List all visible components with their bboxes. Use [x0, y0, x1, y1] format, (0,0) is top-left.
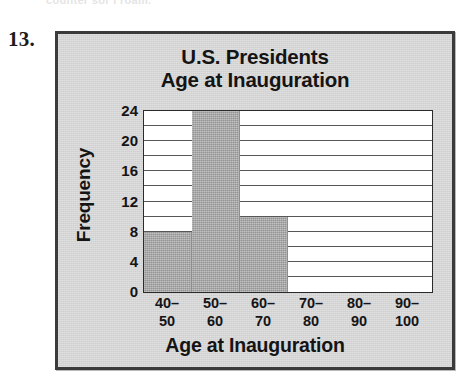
x-axis-tick-label: 40–50: [143, 295, 191, 330]
x-axis-tick-label-line: 70: [239, 313, 287, 331]
chart-title-line-1: U.S. Presidents: [58, 46, 452, 69]
y-axis-tick-label: 16: [121, 162, 138, 179]
x-axis-tick-label-line: 80: [287, 313, 335, 331]
x-axis-tick-label-line: 90: [335, 313, 383, 331]
x-axis-tick-label-line: 90–: [383, 295, 431, 313]
bar-slot: [288, 111, 336, 292]
y-axis-tick-labels: 04812162024: [98, 110, 138, 291]
bar-slot: [192, 111, 240, 292]
bar-series: [144, 111, 432, 292]
y-axis-tick-label: 24: [121, 102, 138, 119]
bar-slot: [144, 111, 192, 292]
plot-area: [143, 110, 433, 293]
x-axis-tick-label-line: 100: [383, 313, 431, 331]
x-axis-tick-labels: 40–5050–6060–7070–8080–9090–100: [143, 295, 431, 330]
bar: [144, 232, 192, 292]
y-axis-tick-label: 12: [121, 192, 138, 209]
exercise-number: 13.: [8, 27, 35, 52]
bar: [192, 111, 240, 292]
x-axis-tick-label-line: 50–: [191, 295, 239, 313]
x-axis-tick-label: 80–90: [335, 295, 383, 330]
y-axis-tick-label: 20: [121, 132, 138, 149]
bar-slot: [240, 111, 288, 292]
x-axis-tick-label-line: 50: [143, 313, 191, 331]
y-axis-tick-label: 0: [130, 283, 138, 300]
x-axis-tick-label: 60–70: [239, 295, 287, 330]
x-axis-tick-label-line: 40–: [143, 295, 191, 313]
y-axis-title: Frequency: [73, 125, 95, 265]
chart-figure-panel: U.S. Presidents Age at Inauguration Freq…: [55, 31, 455, 370]
x-axis-tick-label: 70–80: [287, 295, 335, 330]
x-axis-tick-label-line: 60: [191, 313, 239, 331]
bar-slot: [384, 111, 432, 292]
chart-title: U.S. Presidents Age at Inauguration: [58, 46, 452, 92]
cut-off-text-above-figure: counter sor i roam.: [46, 0, 151, 6]
x-axis-tick-label: 90–100: [383, 295, 431, 330]
x-axis-title: Age at Inauguration: [58, 334, 452, 357]
y-axis-tick-label: 8: [130, 222, 138, 239]
bar: [240, 217, 288, 292]
chart-title-line-2: Age at Inauguration: [58, 69, 452, 92]
x-axis-tick-label: 50–60: [191, 295, 239, 330]
bar-slot: [336, 111, 384, 292]
x-axis-tick-label-line: 70–: [287, 295, 335, 313]
x-axis-tick-label-line: 80–: [335, 295, 383, 313]
y-axis-tick-label: 4: [130, 252, 138, 269]
x-axis-tick-label-line: 60–: [239, 295, 287, 313]
